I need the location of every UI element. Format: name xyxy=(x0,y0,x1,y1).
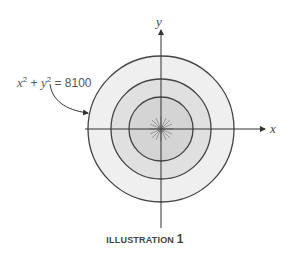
figure-caption: ILLUSTRATION 1 xyxy=(0,232,290,246)
eq-plus: + xyxy=(27,76,41,90)
circle-diagram xyxy=(0,0,290,257)
caption-number: 1 xyxy=(177,232,184,246)
caption-text: ILLUSTRATION xyxy=(106,235,176,245)
x-axis-label: x xyxy=(270,121,276,137)
eq-rhs: = 8100 xyxy=(51,76,91,90)
y-axis-label: y xyxy=(156,14,162,30)
circle-equation: x2 + y2 = 8100 xyxy=(17,75,92,91)
